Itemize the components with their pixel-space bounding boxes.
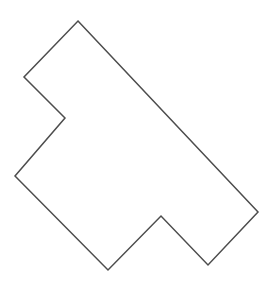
polygon-outline-path [15, 21, 258, 270]
drawing-canvas [0, 0, 276, 297]
polygon-figure [0, 0, 276, 297]
